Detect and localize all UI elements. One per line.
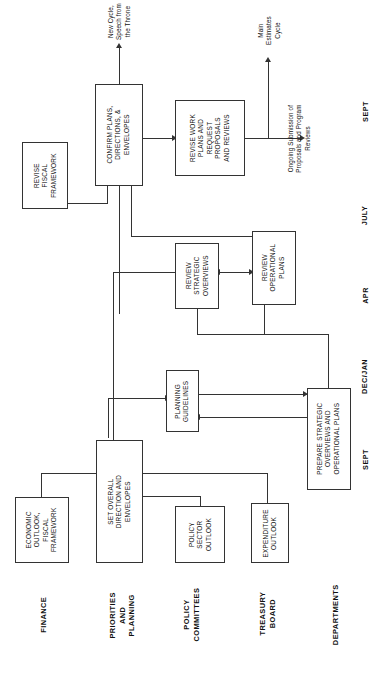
note-main-estimates-label: MainEstimatesCycle bbox=[256, 17, 281, 46]
time-label-sept-end: SEPT bbox=[348, 92, 382, 130]
box-review-strategic-overviews-label: REVIEWSTRATEGICOVERVIEWS bbox=[184, 256, 209, 297]
connector-main-estimates-v bbox=[268, 62, 269, 139]
box-planning-guidelines[interactable]: PLANNINGGUIDELINES bbox=[166, 370, 199, 432]
box-confirm-plans[interactable]: CONFIRM PLANS,DIRECTIONS, &ENVELOPES bbox=[95, 84, 143, 186]
connector-set-to-review-strategic-v bbox=[113, 272, 114, 440]
connector-guidelines-to-prepare bbox=[196, 394, 307, 395]
row-label-priorities-and-planning: PRIORITIESANDPLANNING bbox=[98, 580, 146, 650]
connector-prepare-to-review-v2 bbox=[197, 309, 198, 335]
time-label-apr: APR bbox=[348, 276, 382, 314]
time-label-dec-jan-text: DEC/JAN bbox=[361, 358, 370, 393]
connector-set-to-review-strategic bbox=[113, 272, 175, 273]
box-review-operational-plans-label: REVIEWOPERATIONALPLANS bbox=[261, 244, 286, 292]
box-revise-work-plans[interactable]: REVISE WORKPLANS ANDREQUESTPROPOSALSAND … bbox=[175, 100, 245, 176]
box-review-strategic-overviews[interactable]: REVIEWSTRATEGICOVERVIEWS bbox=[175, 243, 219, 309]
time-label-sept-start: SEPT bbox=[348, 440, 382, 478]
box-set-overall-direction[interactable]: SET OVERALLDIRECTION ANDENVELOPES bbox=[96, 440, 143, 563]
connector-expenditure-to-set-v bbox=[267, 473, 268, 503]
box-revise-fiscal-framework-label: REVISEFISCALFRAMEWORK bbox=[32, 153, 57, 198]
connector-prepare-to-guidelines bbox=[199, 417, 307, 418]
row-label-policy-committees-text: POLICYCOMMITTEES bbox=[182, 588, 201, 642]
row-label-treasury-board: TREASURYBOARD bbox=[244, 583, 292, 645]
time-label-sept-end-text: SEPT bbox=[361, 101, 370, 122]
note-ongoing-submission-label: Ongoing Submission ofProposals and Progr… bbox=[286, 105, 311, 173]
time-label-july: JULY bbox=[348, 196, 382, 234]
connector-revisework-to-ongoing bbox=[245, 138, 303, 139]
row-label-policy-committees: POLICYCOMMITTEES bbox=[168, 580, 216, 650]
box-set-overall-direction-label: SET OVERALLDIRECTION ANDENVELOPES bbox=[107, 475, 132, 528]
row-label-departments-text: DEPARTMENTS bbox=[330, 585, 340, 646]
connector-revise-fiscal-v bbox=[107, 186, 108, 204]
row-label-priorities-and-planning-text: PRIORITIESANDPLANNING bbox=[108, 592, 137, 638]
arrowhead-confirm-to-newcycle bbox=[116, 43, 122, 48]
row-label-finance-text: FINANCE bbox=[39, 597, 49, 633]
connector-review-operational-up-v2 bbox=[131, 186, 132, 237]
connector-prepare-to-review-h bbox=[197, 334, 329, 335]
time-label-july-text: JULY bbox=[361, 205, 370, 225]
connector-prepare-to-operational-v2 bbox=[264, 305, 265, 335]
connector-confirm-to-revisework bbox=[143, 138, 175, 139]
connector-confirm-to-newcycle bbox=[119, 48, 120, 84]
connector-review-strategic-operational bbox=[219, 272, 252, 273]
note-ongoing-submission: Ongoing Submission ofProposals and Progr… bbox=[275, 96, 323, 182]
note-main-estimates: MainEstimatesCycle bbox=[245, 6, 293, 56]
box-policy-sector-outlook[interactable]: POLICYSECTOROUTLOOK bbox=[175, 506, 225, 563]
box-revise-work-plans-label: REVISE WORKPLANS ANDREQUESTPROPOSALSAND … bbox=[189, 114, 231, 162]
box-expenditure-outlook-label: EXPENDITUREOUTLOOK bbox=[262, 509, 279, 557]
box-prepare-strategic-label: PREPARE STRATEGICOVERVIEWS ANDOPERATIONA… bbox=[316, 403, 341, 475]
time-label-apr-text: APR bbox=[361, 287, 370, 304]
box-expenditure-outlook[interactable]: EXPENDITUREOUTLOOK bbox=[251, 503, 289, 563]
row-label-finance: FINANCE bbox=[20, 586, 68, 644]
box-revise-fiscal-framework[interactable]: REVISEFISCALFRAMEWORK bbox=[22, 142, 68, 209]
box-prepare-strategic[interactable]: PREPARE STRATEGICOVERVIEWS ANDOPERATIONA… bbox=[307, 388, 351, 490]
box-policy-sector-outlook-label: POLICYSECTOROUTLOOK bbox=[187, 518, 212, 551]
row-label-departments: DEPARTMENTS bbox=[311, 578, 359, 652]
flowchart-canvas: ECONOMICOUTLOOK,FISCALFRAMEWORK SET OVER… bbox=[0, 0, 384, 681]
note-new-cycle: New Cycle,Speech fromthe Throne bbox=[95, 0, 143, 44]
time-label-dec-jan: DEC/JAN bbox=[348, 352, 382, 400]
arrowhead-main-estimates bbox=[265, 57, 271, 62]
time-label-sept-start-text: SEPT bbox=[361, 449, 370, 470]
connector-review-operational-up-h bbox=[131, 236, 265, 237]
box-review-operational-plans[interactable]: REVIEWOPERATIONALPLANS bbox=[252, 231, 296, 305]
note-new-cycle-label: New Cycle,Speech fromthe Throne bbox=[106, 4, 131, 41]
row-label-treasury-board-text: TREASURYBOARD bbox=[258, 592, 277, 636]
connector-revise-fiscal-h bbox=[68, 203, 107, 204]
box-planning-guidelines-label: PLANNINGGUIDELINES bbox=[174, 380, 191, 421]
connector-economic-to-set bbox=[41, 473, 42, 498]
connector-review-strategic-to-confirm bbox=[119, 186, 120, 314]
connector-prepare-to-review-v bbox=[328, 334, 329, 389]
box-economic-outlook[interactable]: ECONOMICOUTLOOK,FISCALFRAMEWORK bbox=[15, 497, 69, 563]
box-economic-outlook-label: ECONOMICOUTLOOK,FISCALFRAMEWORK bbox=[25, 508, 59, 553]
box-confirm-plans-label: CONFIRM PLANS,DIRECTIONS, &ENVELOPES bbox=[106, 106, 131, 164]
connector-set-to-guidelines-v bbox=[108, 398, 109, 438]
connector-set-to-guidelines-h bbox=[108, 398, 166, 399]
arrowhead-revisework-to-ongoing bbox=[300, 135, 305, 141]
